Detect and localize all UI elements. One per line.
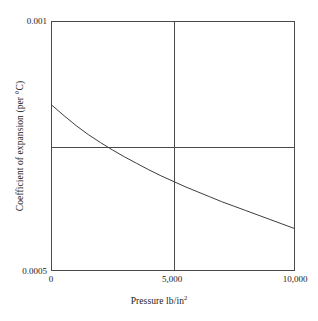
y-axis-tick-label-max: 0.001	[27, 17, 47, 26]
plot-area	[51, 21, 295, 271]
x-axis-tick-label-0: 0	[49, 275, 54, 284]
x-axis-tick-label-10000: 10,000	[283, 275, 308, 284]
chart-figure: 0.001 0.0005 0 5,000 10,000 Pressure lb/…	[0, 0, 318, 321]
series-line-coefficient-of-expansion	[52, 105, 294, 228]
y-axis-tick-label-min: 0.0005	[22, 267, 47, 276]
x-axis-title-text: Pressure lb/in	[131, 296, 184, 306]
x-axis-title-superscript: 2	[184, 294, 187, 301]
y-axis-title: Coefficient of expansion (per °C)	[15, 81, 26, 211]
data-curve-svg	[52, 22, 294, 270]
x-axis-title: Pressure lb/in2	[0, 296, 318, 307]
x-axis-tick-label-5000: 5,000	[162, 275, 182, 284]
